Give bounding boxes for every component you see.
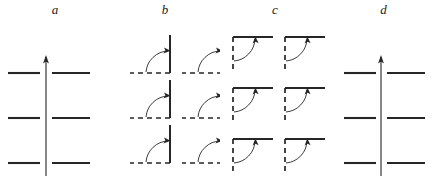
corner-glyph-r3c1 [130, 125, 171, 163]
corner-glyph-r1c2 [182, 35, 220, 73]
corner-glyph-r3c2 [182, 125, 220, 163]
panel-c-canvas [220, 0, 330, 181]
panel-d: d [330, 0, 437, 181]
corner-glyph-r1c2 [285, 36, 325, 73]
corner-glyph-r3c1 [233, 138, 273, 175]
figure-container: a b [0, 0, 437, 181]
corner-glyph-r1c1 [130, 35, 171, 73]
corner-glyph-r3c2 [285, 138, 325, 175]
corner-glyph-r2c1 [233, 87, 273, 124]
panel-b-canvas [110, 0, 220, 181]
corner-glyph-r2c2 [285, 87, 325, 124]
corner-glyph-r2c1 [130, 80, 171, 118]
corner-glyph-r1c1 [233, 36, 273, 73]
panel-d-canvas [330, 0, 437, 181]
panel-a: a [0, 0, 110, 181]
panel-a-canvas [0, 0, 110, 181]
corner-glyph-r2c2 [182, 80, 220, 118]
panel-c: c [220, 0, 330, 181]
panel-b: b [110, 0, 220, 181]
